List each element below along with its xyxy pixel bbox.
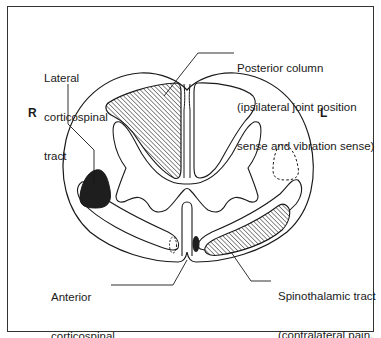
label-line: tract xyxy=(44,150,108,163)
label-line: (contralateral pain, xyxy=(278,329,376,338)
label-line: corticospinal xyxy=(51,330,115,338)
anterior-corticospinal-tract-black xyxy=(193,236,200,252)
label-line: (ipsilateral joint position xyxy=(237,101,374,114)
label-line: Anterior xyxy=(51,291,115,304)
label-line: Posterior column xyxy=(237,62,374,75)
label-anterior-corticospinal: Anterior corticospinal tract xyxy=(51,265,115,338)
leader-anterior-corticospinal xyxy=(111,260,187,285)
label-line: Lateral xyxy=(44,72,108,85)
label-lateral-corticospinal: Lateral corticospinal tract xyxy=(44,46,108,176)
label-spinothalamic: Spinothalamic tract (contralateral pain,… xyxy=(278,264,376,338)
label-line: Spinothalamic tract xyxy=(278,290,376,303)
label-line: corticospinal xyxy=(44,111,108,124)
label-posterior-column: Posterior column (ipsilateral joint posi… xyxy=(237,36,374,166)
label-line: sense and vibration sense) xyxy=(237,140,374,153)
side-label-right: R xyxy=(28,106,37,120)
